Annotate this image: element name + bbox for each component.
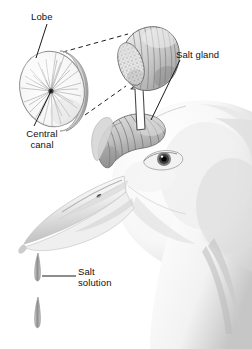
label-salt-solution: Salt solution: [78, 266, 112, 288]
label-central-canal: Central canal: [13, 128, 71, 150]
label-salt-gland: Salt gland: [176, 49, 219, 60]
label-lobe: Lobe: [31, 11, 53, 22]
